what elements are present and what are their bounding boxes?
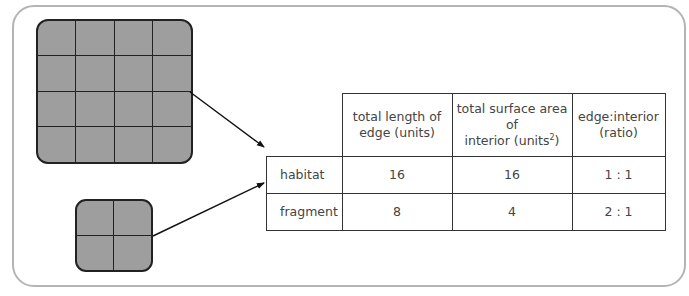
grid-cell xyxy=(38,56,76,91)
header-edge-length: total length of edge (units) xyxy=(342,94,452,157)
header-ratio: edge:interior (ratio) xyxy=(572,94,665,157)
ratio-value: 2 : 1 xyxy=(572,194,665,231)
edge-value: 8 xyxy=(342,194,452,231)
ratio-value: 1 : 1 xyxy=(572,157,665,194)
grid-cell xyxy=(153,56,191,91)
fragment-grid-block xyxy=(75,199,153,272)
row-label: fragment xyxy=(267,194,343,231)
grid-cell xyxy=(114,236,151,271)
grid-cell xyxy=(115,127,153,162)
area-value: 16 xyxy=(452,157,572,194)
grid-cell xyxy=(115,21,153,56)
grid-cell xyxy=(76,127,114,162)
row-label: habitat xyxy=(267,157,343,194)
table-row: habitat 16 16 1 : 1 xyxy=(267,157,666,194)
grid-cell xyxy=(38,127,76,162)
table-row: fragment 8 4 2 : 1 xyxy=(267,194,666,231)
habitat-grid-block xyxy=(36,19,193,164)
area-value: 4 xyxy=(452,194,572,231)
grid-cell xyxy=(153,127,191,162)
grid-cell xyxy=(38,21,76,56)
grid-cell xyxy=(38,92,76,127)
edge-interior-table: total length of edge (units) total surfa… xyxy=(266,93,666,231)
grid-cell xyxy=(77,201,114,236)
grid-cell xyxy=(76,56,114,91)
grid-cell xyxy=(115,92,153,127)
table-header-row: total length of edge (units) total surfa… xyxy=(267,94,666,157)
grid-cell xyxy=(153,92,191,127)
grid-cell xyxy=(77,236,114,271)
header-blank xyxy=(267,94,343,157)
grid-cell xyxy=(115,56,153,91)
grid-cell xyxy=(114,201,151,236)
grid-cell xyxy=(76,21,114,56)
edge-value: 16 xyxy=(342,157,452,194)
header-interior-area: total surface area of interior (units2) xyxy=(452,94,572,157)
grid-cell xyxy=(153,21,191,56)
grid-cell xyxy=(76,92,114,127)
